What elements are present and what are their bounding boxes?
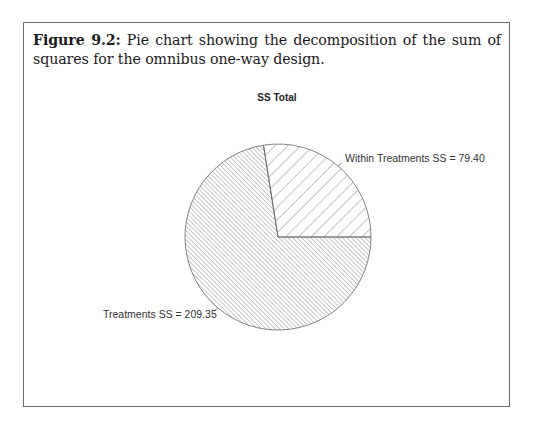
slice-label: Within Treatments SS = 79.40 (345, 152, 485, 164)
pie-slices (185, 144, 371, 330)
slice-label: Treatments SS = 209.35 (103, 308, 217, 320)
pie-chart: SS Total Within Treatments SS = 79.40Tre… (0, 0, 536, 427)
label-leader-line (338, 162, 341, 166)
chart-title: SS Total (257, 92, 296, 103)
